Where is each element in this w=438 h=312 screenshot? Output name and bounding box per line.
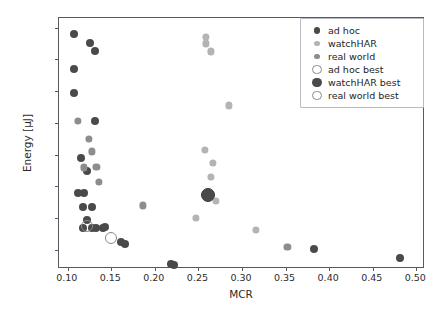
legend-item[interactable]: real world best (306, 89, 417, 102)
legend-marker-icon (306, 65, 328, 75)
x-tick-label: 0.10 (56, 272, 77, 283)
data-point (93, 163, 100, 170)
legend-item[interactable]: real world (306, 50, 417, 63)
scatter-plot-figure: Energy [µJ] MCR 200030004000500060007000… (0, 0, 438, 312)
legend: ad hocwatchHARreal worldad hoc bestwatch… (300, 18, 424, 108)
data-point (89, 148, 96, 155)
data-point (203, 40, 210, 47)
y-axis-label: Energy [µJ] (21, 114, 33, 172)
data-point (310, 245, 318, 253)
x-tick-label: 0.30 (230, 272, 251, 283)
legend-marker-icon (306, 91, 328, 101)
x-tick-mark (329, 267, 330, 271)
x-tick-mark (198, 267, 199, 271)
data-point (77, 154, 85, 162)
legend-marker-icon (306, 41, 328, 47)
legend-label: ad hoc (328, 24, 360, 37)
y-tick-mark (55, 123, 59, 124)
legend-label: watchHAR best (328, 76, 400, 89)
y-tick-mark (55, 155, 59, 156)
data-point (192, 215, 199, 222)
data-point (252, 227, 259, 234)
legend-marker-icon (306, 54, 328, 60)
legend-label: real world (328, 50, 375, 63)
data-point (101, 223, 109, 231)
legend-label: real world best (328, 89, 399, 102)
data-point (81, 220, 93, 232)
data-point (79, 203, 87, 211)
x-tick-mark (242, 267, 243, 271)
data-point (85, 135, 92, 142)
x-tick-mark (68, 267, 69, 271)
data-point (207, 48, 214, 55)
data-point (86, 39, 94, 47)
legend-label: watchHAR (328, 37, 377, 50)
data-point (88, 203, 96, 211)
x-tick-label: 0.45 (361, 272, 382, 283)
y-tick-mark (55, 186, 59, 187)
x-tick-mark (373, 267, 374, 271)
data-point (284, 243, 291, 250)
x-tick-label: 0.40 (318, 272, 339, 283)
legend-marker-icon (306, 27, 328, 33)
data-point (201, 188, 215, 202)
data-point (70, 30, 78, 38)
legend-item[interactable]: ad hoc best (306, 63, 417, 76)
y-tick-mark (55, 59, 59, 60)
x-tick-label: 0.35 (274, 272, 295, 283)
data-point (70, 89, 78, 97)
x-tick-mark (416, 267, 417, 271)
y-tick-mark (55, 91, 59, 92)
data-point (201, 146, 208, 153)
data-point (225, 102, 232, 109)
y-tick-mark (55, 218, 59, 219)
data-point (91, 47, 99, 55)
data-point (75, 118, 82, 125)
y-tick-mark (55, 28, 59, 29)
legend-label: ad hoc best (328, 63, 384, 76)
data-point (170, 261, 178, 269)
x-tick-label: 0.20 (143, 272, 164, 283)
data-point (207, 173, 214, 180)
x-tick-label: 0.15 (100, 272, 121, 283)
data-point (80, 189, 88, 197)
data-point (91, 117, 99, 125)
data-point (139, 202, 146, 209)
x-tick-mark (155, 267, 156, 271)
x-tick-mark (286, 267, 287, 271)
x-axis-label: MCR (229, 288, 253, 300)
data-point (396, 254, 404, 262)
x-tick-label: 0.50 (405, 272, 426, 283)
data-point (70, 65, 78, 73)
legend-item[interactable]: watchHAR best (306, 76, 417, 89)
data-point (210, 159, 217, 166)
data-point (121, 240, 129, 248)
data-point (105, 232, 117, 244)
x-tick-mark (111, 267, 112, 271)
data-point (95, 178, 102, 185)
y-tick-mark (55, 250, 59, 251)
legend-item[interactable]: ad hoc (306, 24, 417, 37)
x-tick-label: 0.25 (187, 272, 208, 283)
legend-item[interactable]: watchHAR (306, 37, 417, 50)
legend-marker-icon (306, 78, 328, 87)
